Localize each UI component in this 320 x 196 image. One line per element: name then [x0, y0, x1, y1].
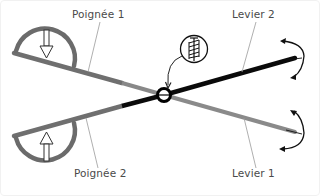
rotation-arrow-bottom-icon — [279, 110, 304, 152]
label-lever-1: Levier 1 — [232, 167, 275, 179]
arrow-down-icon — [40, 30, 53, 58]
arrow-up-icon — [40, 132, 53, 161]
callout-arrow-icon — [166, 56, 183, 88]
spring-hinge-icon — [181, 36, 208, 63]
pivot-ring-icon — [157, 89, 171, 102]
label-lever-2: Levier 2 — [232, 8, 275, 20]
lever-2-bar — [14, 58, 295, 136]
scissors-diagram: Poignée 1 Levier 2 Poignée 2 Levier 1 — [0, 0, 320, 196]
label-handle-2: Poignée 2 — [74, 167, 126, 179]
lever-1-bar — [14, 53, 295, 132]
label-handle-1: Poignée 1 — [72, 8, 124, 20]
